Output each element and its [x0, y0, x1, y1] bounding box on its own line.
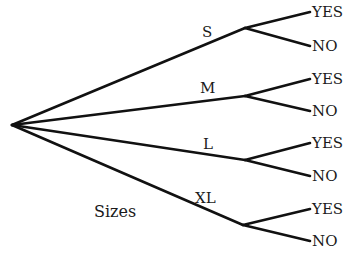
size-label-l: L — [203, 135, 213, 153]
size-label-s: S — [202, 23, 212, 41]
diagram-caption: Sizes — [94, 202, 136, 221]
size-label-xl: XL — [195, 189, 216, 207]
leaf-label-xl-no: NO — [312, 232, 337, 250]
size-label-m: M — [200, 79, 215, 97]
tree-diagram: SYESNOMYESNOLYESNOXLYESNO Sizes — [0, 0, 355, 261]
leaf-label-m-no: NO — [312, 102, 337, 120]
leaf-label-s-yes: YES — [311, 3, 343, 21]
leaf-edge-xl-yes — [243, 209, 310, 225]
leaf-label-l-yes: YES — [311, 134, 343, 152]
leaf-edge-m-yes — [245, 79, 310, 96]
leaf-edge-xl-no — [243, 225, 310, 241]
leaf-edge-l-no — [245, 160, 310, 176]
leaf-edge-m-no — [245, 96, 310, 111]
leaf-label-s-no: NO — [312, 37, 337, 55]
leaf-edge-l-yes — [245, 143, 310, 160]
leaf-edge-s-yes — [245, 12, 310, 28]
leaf-label-xl-yes: YES — [311, 200, 343, 218]
leaf-edge-s-no — [245, 28, 310, 46]
leaf-label-l-no: NO — [312, 167, 337, 185]
leaf-label-m-yes: YES — [311, 70, 343, 88]
tree-edges — [12, 12, 310, 241]
